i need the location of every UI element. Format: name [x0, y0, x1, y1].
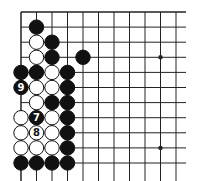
white-stone — [29, 50, 43, 64]
black-stone — [14, 65, 28, 79]
black-stone — [45, 35, 59, 49]
move-number-label: 9 — [18, 82, 25, 93]
star-point — [158, 146, 162, 150]
white-stone — [29, 141, 43, 155]
white-stone — [29, 35, 43, 49]
black-stone — [60, 111, 74, 125]
black-stone — [29, 156, 43, 170]
black-stone — [60, 95, 74, 109]
move-number-label: 7 — [33, 112, 40, 123]
white-stone — [45, 141, 59, 155]
black-stone — [29, 65, 43, 79]
white-stone — [29, 95, 43, 109]
black-stone — [45, 95, 59, 109]
white-stone — [45, 65, 59, 79]
white-stone — [14, 141, 28, 155]
white-stone — [14, 111, 28, 125]
move-number-label: 8 — [33, 127, 40, 138]
go-board: 978 — [0, 0, 199, 181]
black-stone — [60, 141, 74, 155]
white-stone — [45, 111, 59, 125]
black-stone — [45, 50, 59, 64]
white-stone — [45, 126, 59, 140]
board-svg: 978 — [0, 0, 199, 181]
black-stone — [29, 20, 43, 34]
white-stone — [29, 80, 43, 94]
star-point — [158, 55, 162, 59]
black-stone — [60, 156, 74, 170]
black-stone — [14, 156, 28, 170]
black-stone — [45, 156, 59, 170]
black-stone — [76, 50, 90, 64]
white-stone — [14, 126, 28, 140]
black-stone — [60, 126, 74, 140]
black-stone — [60, 80, 74, 94]
white-stone — [45, 80, 59, 94]
black-stone — [60, 65, 74, 79]
